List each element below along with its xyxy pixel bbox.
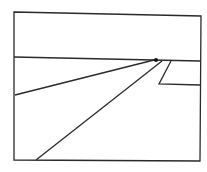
perspective-diagram [0,0,207,172]
road-right-edge [36,61,162,160]
side-shape [159,61,200,85]
road-left-edge [15,60,154,95]
horizon-line [14,57,200,61]
picture-frame [14,12,201,161]
vanishing-point [154,58,158,62]
